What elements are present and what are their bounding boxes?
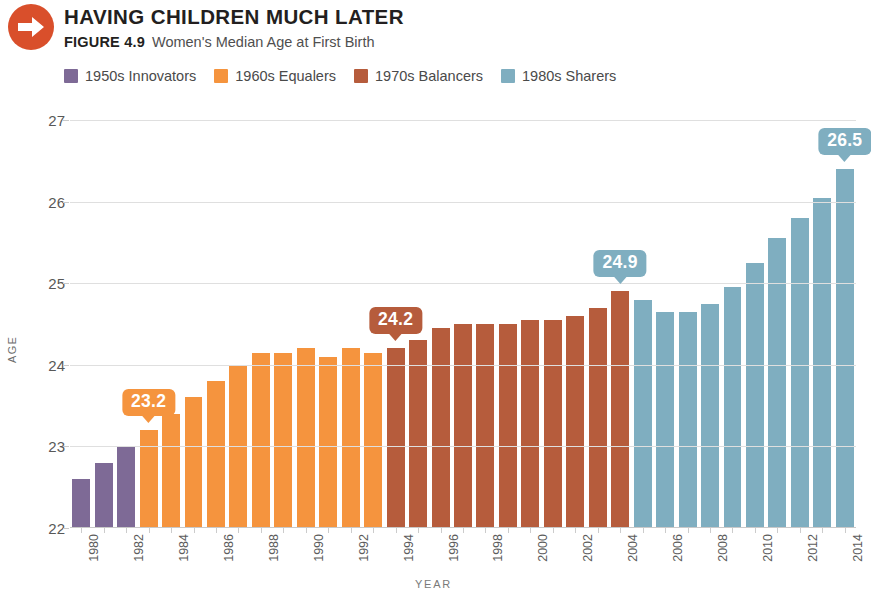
legend-item-label: 1980s Sharers: [522, 68, 616, 84]
x-axis-tick-mark: [418, 528, 419, 533]
bar: [319, 357, 337, 528]
chart-area: AGE 222324252627 19801982198419861988199…: [0, 98, 867, 599]
legend-item: 1980s Sharers: [501, 68, 616, 84]
x-axis-tick-mark: [171, 528, 172, 533]
x-axis-label: YEAR: [0, 578, 867, 590]
bar: [724, 287, 742, 528]
value-callout: 23.2: [122, 389, 175, 423]
y-axis-tick-label: 27: [25, 112, 65, 129]
x-axis-tick-mark: [463, 528, 464, 533]
figure-description: Women's Median Age at First Birth: [152, 34, 375, 50]
x-axis-tick-label: 1980: [87, 534, 101, 562]
x-axis-tick-mark: [598, 528, 599, 533]
bar: [634, 300, 652, 528]
legend-swatch-icon: [354, 69, 368, 83]
callout-pointer-icon: [613, 276, 627, 284]
bar: [768, 238, 786, 528]
bar: [611, 291, 629, 528]
x-axis-tick-mark: [194, 528, 195, 533]
x-axis-tick-mark: [777, 528, 778, 533]
x-axis-tick-mark: [485, 528, 486, 533]
bar: [566, 316, 584, 528]
legend-swatch-icon: [501, 69, 515, 83]
bar: [589, 308, 607, 528]
x-axis-tick-label: 1988: [267, 534, 281, 562]
legend-item: 1950s Innovators: [64, 68, 196, 84]
bar-series: [70, 120, 856, 528]
bar: [701, 304, 719, 528]
y-axis-tick-mark: [63, 283, 69, 284]
callout-value-label: 24.9: [594, 250, 647, 277]
y-axis-tick-mark: [63, 446, 69, 447]
bar: [364, 353, 382, 528]
x-axis-tick-mark: [104, 528, 105, 533]
x-axis-tick-mark: [800, 528, 801, 533]
x-axis-tick-mark: [261, 528, 262, 533]
x-axis-tick-label: 2004: [626, 534, 640, 562]
x-axis-tick-mark: [575, 528, 576, 533]
x-axis-tick-mark: [328, 528, 329, 533]
bar: [72, 479, 90, 528]
x-axis-tick-mark: [530, 528, 531, 533]
value-callout: 26.5: [818, 128, 871, 162]
gridline: [70, 365, 856, 366]
x-axis-tick-mark: [283, 528, 284, 533]
page-title: HAVING CHILDREN MUCH LATER: [64, 5, 404, 29]
bar: [656, 312, 674, 528]
x-axis-tick-mark: [620, 528, 621, 533]
y-axis-tick-label: 25: [25, 275, 65, 292]
bar: [162, 414, 180, 528]
x-axis-tick-mark: [238, 528, 239, 533]
x-axis-tick-mark: [441, 528, 442, 533]
gridline: [70, 283, 856, 284]
x-axis-tick-mark: [845, 528, 846, 533]
bar: [499, 324, 517, 528]
bar: [476, 324, 494, 528]
bar: [95, 463, 113, 528]
x-axis-tick-mark: [822, 528, 823, 533]
figure-number: FIGURE 4.9: [64, 34, 145, 50]
chart-legend: 1950s Innovators1960s Equalers1970s Bala…: [64, 68, 616, 84]
legend-swatch-icon: [64, 69, 78, 83]
x-axis-tick-label: 2010: [761, 534, 775, 562]
x-axis-tick-label: 2012: [806, 534, 820, 562]
x-axis-tick-mark: [732, 528, 733, 533]
bar: [207, 381, 225, 528]
chart-header: HAVING CHILDREN MUCH LATER FIGURE 4.9Wom…: [0, 0, 867, 98]
legend-item-label: 1960s Equalers: [235, 68, 336, 84]
y-axis-label: AGE: [6, 336, 18, 363]
x-axis-tick-label: 2008: [716, 534, 730, 562]
bar: [813, 198, 831, 528]
x-axis-tick-label: 1990: [312, 534, 326, 562]
bar: [679, 312, 697, 528]
x-axis-tick-mark: [508, 528, 509, 533]
bar: [432, 328, 450, 528]
y-axis-tick-label: 26: [25, 193, 65, 210]
y-axis-tick-mark: [63, 120, 69, 121]
callout-value-label: 26.5: [818, 128, 871, 155]
x-axis-tick-label: 1998: [491, 534, 505, 562]
legend-item-label: 1970s Balancers: [375, 68, 483, 84]
bar: [297, 348, 315, 528]
bar: [274, 353, 292, 528]
arrow-right-circle-icon: [8, 4, 54, 50]
y-axis-tick-mark: [63, 365, 69, 366]
y-axis-tick-mark: [63, 202, 69, 203]
x-axis-tick-label: 2006: [671, 534, 685, 562]
x-axis-tick-label: 1992: [357, 534, 371, 562]
value-callout: 24.9: [594, 250, 647, 284]
bar: [387, 348, 405, 528]
bar: [544, 320, 562, 528]
x-axis-tick-mark: [688, 528, 689, 533]
bar: [791, 218, 809, 528]
x-axis-tick-label: 2014: [851, 534, 865, 562]
gridline: [70, 446, 856, 447]
x-axis-tick-label: 2000: [536, 534, 550, 562]
x-axis-tick-label: 1986: [222, 534, 236, 562]
gridline: [70, 120, 856, 121]
bar: [185, 397, 203, 528]
y-axis-tick-label: 23: [25, 438, 65, 455]
x-axis-tick-mark: [396, 528, 397, 533]
x-axis-tick-mark: [351, 528, 352, 533]
y-axis-tick-mark: [63, 528, 69, 529]
